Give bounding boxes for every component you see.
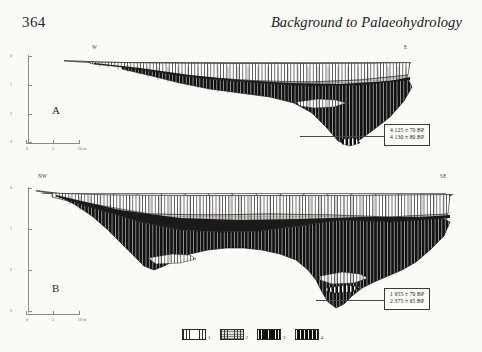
compass-se-b: SE (440, 173, 447, 179)
legend-swatch-3 (257, 329, 281, 340)
date-line: 1 955 ± 70 BP (390, 291, 424, 298)
legend-number: 2 (246, 335, 249, 341)
legend-number: 1 (208, 335, 211, 341)
radiocarbon-dates-a: 4 125 ± 70 BP 4 130 ± 80 BP (384, 124, 430, 146)
legend-item: 3 (257, 329, 286, 340)
legend-swatch-1 (182, 329, 206, 340)
scale-label: 5 (52, 146, 54, 151)
depth-axis-b (28, 187, 29, 313)
legend-number: 3 (283, 335, 286, 341)
scale-label: 0 (26, 146, 28, 151)
date-leader-b (316, 300, 384, 301)
date-line: 4 125 ± 70 BP (390, 127, 424, 134)
scale-label: 0 (26, 317, 28, 322)
scale-label: 10 m (78, 317, 87, 322)
compass-east-a: E (404, 44, 407, 50)
date-leader-a (300, 136, 384, 137)
legend-swatch-2 (220, 329, 244, 340)
figure-legend: 1 2 3 4 (182, 329, 323, 340)
scale-bar-b: 0 5 10 m (26, 314, 80, 324)
scale-label: 10 m (78, 146, 87, 151)
legend-item: 1 (182, 329, 211, 340)
cross-section-a: 0 1 2 3 W E 1234567891011 (0, 0, 482, 160)
compass-nw-b: NW (38, 173, 47, 179)
scale-bar-a: 0 5 10 m (26, 143, 80, 153)
depth-axis-a (28, 55, 29, 143)
legend-item: 4 (295, 329, 324, 340)
compass-west-a: W (92, 44, 97, 50)
radiocarbon-dates-b: 1 955 ± 70 BP 2 375 ± 65 BP (384, 288, 430, 310)
panel-label-a: A (52, 104, 60, 116)
scale-label: 5 (52, 317, 54, 322)
cross-section-b: 0 1 2 3 NW SE 12345678910111213141516 (0, 162, 482, 332)
legend-item: 2 (220, 329, 249, 340)
panel-label-b: B (52, 282, 59, 294)
book-page: 364 Background to Palaeohydrology 0 1 2 … (0, 0, 482, 352)
legend-number: 4 (321, 335, 324, 341)
legend-swatch-4 (295, 329, 319, 340)
date-line: 4 130 ± 80 BP (390, 134, 424, 141)
date-line: 2 375 ± 65 BP (390, 298, 424, 305)
